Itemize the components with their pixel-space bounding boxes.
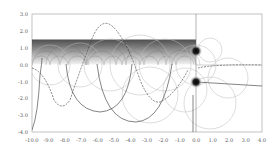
contour-plot: 3.0 2.0 1.0 0.0 -1.0 -2.0 -3.0 -4.0 -10.…	[0, 0, 277, 152]
svg-text:-4.0: -4.0	[18, 129, 28, 135]
svg-text:-1.0: -1.0	[175, 137, 185, 143]
svg-text:1.0: 1.0	[209, 137, 217, 143]
svg-text:1.0: 1.0	[20, 45, 28, 51]
svg-text:-8.0: -8.0	[60, 137, 70, 143]
svg-text:2.0: 2.0	[225, 137, 233, 143]
svg-text:-7.0: -7.0	[76, 137, 86, 143]
svg-text:0.0: 0.0	[20, 62, 28, 68]
svg-text:-10.0: -10.0	[25, 137, 38, 143]
svg-text:2.0: 2.0	[20, 28, 28, 34]
svg-text:0.0: 0.0	[192, 137, 200, 143]
svg-text:-2.0: -2.0	[158, 137, 168, 143]
svg-text:-3.0: -3.0	[18, 112, 28, 118]
svg-text:-3.0: -3.0	[142, 137, 152, 143]
singularity-lower	[190, 76, 203, 89]
x-axis-ticks: -10.0 -9.0 -8.0 -7.0 -6.0 -5.0 -4.0 -3.0…	[25, 137, 266, 143]
svg-text:-2.0: -2.0	[18, 95, 28, 101]
plot-frame	[32, 14, 262, 132]
y-axis-ticks: 3.0 2.0 1.0 0.0 -1.0 -2.0 -3.0 -4.0	[18, 11, 28, 135]
svg-text:-5.0: -5.0	[109, 137, 119, 143]
svg-text:3.0: 3.0	[20, 11, 28, 17]
svg-text:-4.0: -4.0	[126, 137, 136, 143]
svg-text:-6.0: -6.0	[93, 137, 103, 143]
svg-text:-1.0: -1.0	[18, 79, 28, 85]
svg-text:-9.0: -9.0	[43, 137, 53, 143]
singularity-upper	[190, 45, 203, 58]
svg-text:3.0: 3.0	[241, 137, 249, 143]
svg-text:4.0: 4.0	[258, 137, 266, 143]
